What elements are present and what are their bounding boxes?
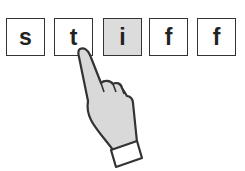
pointing-hand-icon <box>0 0 245 171</box>
